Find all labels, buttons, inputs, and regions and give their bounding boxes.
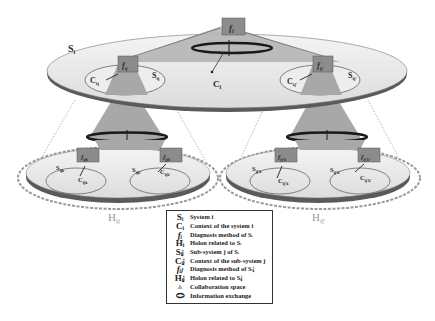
- holon-hij-prime: fij'k Sij'k Cij'k fij'k' Sij'k' Cij'k': [220, 140, 420, 209]
- legend-text: Holon related to Sᵢ: [190, 239, 241, 247]
- legend-item: ⬭Information exchange: [170, 291, 269, 300]
- legend-symbol: Cᵢ: [170, 222, 190, 230]
- legend-text: Holon related to Sᵢⱼ: [190, 274, 242, 282]
- legend-symbol: Hᵢⱼ: [170, 274, 190, 282]
- legend-item: fᵢDiagnosis method of Sᵢ: [170, 230, 269, 239]
- legend-text: Context of the system i: [190, 222, 253, 230]
- legend-symbol: Sᵢⱼ: [170, 248, 190, 256]
- legend-item: ▲Collaboration space: [170, 283, 269, 292]
- system-si-label: Si: [68, 43, 76, 55]
- info-exchange-icon: ⬭: [170, 292, 190, 300]
- legend-text: Context of the sub-system j: [190, 257, 265, 265]
- legend-text: Sub-system j of Sᵢ: [190, 248, 239, 256]
- legend-box: SᵢSystem i CᵢContext of the system i fᵢD…: [166, 210, 273, 304]
- legend-text: System i: [190, 213, 213, 221]
- holon-hij-prime-label: Hij': [312, 211, 325, 225]
- holon-hij-label: Hij: [108, 211, 120, 225]
- legend-item: CᵢⱼContext of the sub-system j: [170, 256, 269, 265]
- holon-hij: fijk Sijk Cijk fijk' Sijk' Cijk': [18, 140, 218, 209]
- legend-item: SᵢSystem i: [170, 213, 269, 222]
- legend-text: Collaboration space: [190, 283, 245, 291]
- legend-item: HᵢHolon related to Sᵢ: [170, 239, 269, 248]
- legend-text: Information exchange: [190, 292, 251, 300]
- legend-item: HᵢⱼHolon related to Sᵢⱼ: [170, 274, 269, 283]
- legend-text: Diagnosis method of Sᵢ: [190, 231, 253, 239]
- legend-item: CᵢContext of the system i: [170, 222, 269, 231]
- legend-text: Diagnosis method of Sᵢⱼ: [190, 265, 254, 273]
